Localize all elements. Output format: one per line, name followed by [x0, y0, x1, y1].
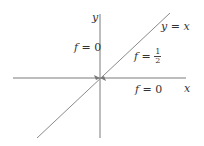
equals-sign: = — [82, 41, 91, 54]
y-axis-label: y — [92, 12, 98, 23]
f-symbol: f — [74, 41, 78, 54]
x-axis-label: x — [184, 83, 190, 94]
line-label: y = x — [161, 21, 190, 32]
region-label-upper-left: f = 0 — [74, 42, 101, 53]
line-y-equals-x — [37, 13, 170, 138]
fraction-denominator: 2 — [154, 57, 161, 65]
region-label-lower-right: f = 0 — [135, 84, 162, 95]
equals-sign: = — [142, 50, 151, 63]
fraction-one-half: 1 2 — [154, 48, 161, 65]
f-symbol: f — [135, 83, 139, 96]
f-symbol: f — [134, 50, 138, 63]
region-value: 0 — [155, 83, 162, 96]
equals-sign: = — [143, 83, 152, 96]
region-label-on-line: f = 1 2 — [134, 48, 161, 65]
region-value: 0 — [94, 41, 101, 54]
